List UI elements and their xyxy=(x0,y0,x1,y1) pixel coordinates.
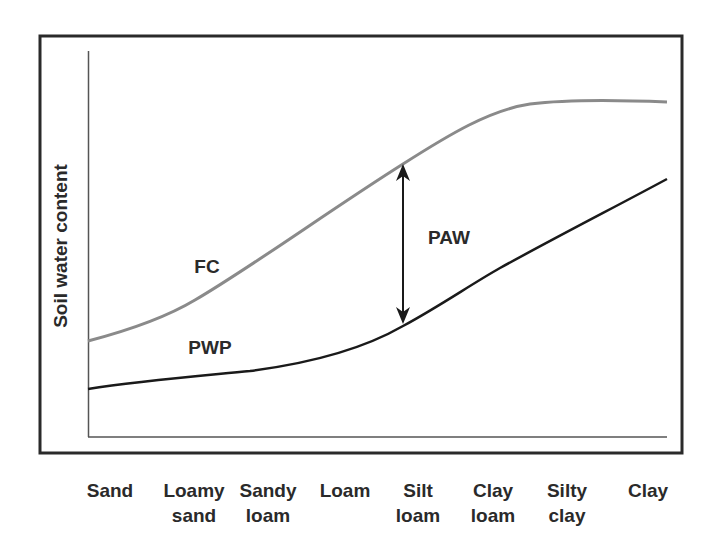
x-label-line2: clay xyxy=(522,503,612,528)
x-label-clay: Clay xyxy=(603,478,693,503)
fc-label: FC xyxy=(194,256,220,277)
x-label-line2: loam xyxy=(223,503,313,528)
x-label-line1: Silty xyxy=(522,478,612,503)
x-label-line1: Clay xyxy=(603,478,693,503)
pwp-label: PWP xyxy=(188,337,232,358)
x-label-silty-clay: Silty clay xyxy=(522,478,612,528)
paw-double-arrow xyxy=(396,164,410,324)
figure-frame xyxy=(40,36,682,453)
x-label-sand: Sand xyxy=(65,478,155,503)
y-axis-label: Soil water content xyxy=(50,164,71,328)
fc-curve xyxy=(88,100,667,341)
paw-label: PAW xyxy=(428,227,470,248)
soil-water-diagram: FC PWP PAW Soil water content xyxy=(0,0,716,554)
pwp-curve xyxy=(88,179,667,389)
x-label-line1: Sand xyxy=(65,478,155,503)
